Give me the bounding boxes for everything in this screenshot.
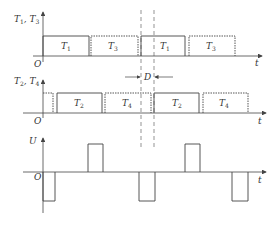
- y-axis-label: T2, T4: [14, 76, 40, 87]
- y-axis-label: U: [29, 136, 37, 146]
- svg-text:T2: T2: [74, 98, 84, 109]
- pulse-positive: [88, 144, 103, 172]
- t-label: t: [255, 58, 259, 68]
- origin-label: O: [34, 172, 42, 182]
- plot-t1-t3: T1, T3 O t T1 T3 T1 T3: [14, 12, 262, 69]
- plot-t2-t4: T2, T4 O t T2 T4 T2 T4: [14, 76, 266, 126]
- pulse-negative: [43, 172, 55, 201]
- svg-text:T4: T4: [122, 98, 132, 109]
- svg-text:T4: T4: [219, 98, 229, 109]
- plot-u: U O t: [23, 136, 266, 213]
- d-label: D: [143, 72, 151, 82]
- svg-text:T1: T1: [160, 41, 170, 52]
- pulse-positive: [185, 144, 200, 172]
- pulse-negative: [139, 172, 155, 201]
- origin-label: O: [34, 59, 42, 69]
- phase-shift-indicator: D: [125, 72, 173, 82]
- svg-text:T1: T1: [61, 41, 71, 52]
- pulse-t4-partial: [43, 93, 53, 113]
- timing-diagram: T1, T3 O t T1 T3 T1 T3 D T2, T4 O t T2 T…: [0, 0, 280, 226]
- svg-text:T3: T3: [108, 41, 118, 52]
- y-axis-label: T1, T3: [14, 14, 40, 25]
- t-label: t: [258, 116, 262, 126]
- pulse-negative: [232, 172, 248, 201]
- t-label: t: [258, 175, 262, 185]
- svg-text:T2: T2: [172, 98, 182, 109]
- svg-text:T3: T3: [206, 41, 216, 52]
- origin-label: O: [34, 116, 42, 126]
